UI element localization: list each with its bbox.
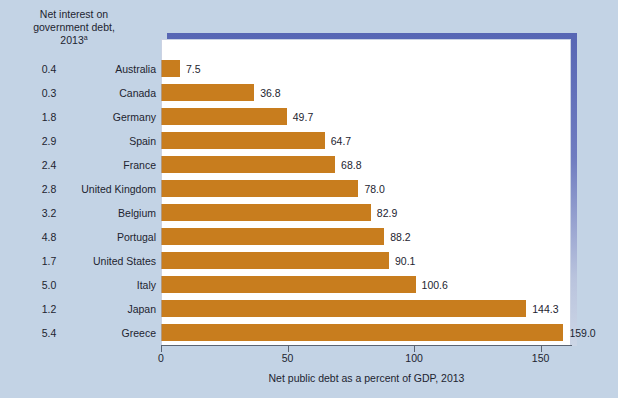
country-label: France: [60, 153, 156, 177]
chart-row: 2.8United Kingdom78.0: [0, 177, 618, 201]
left-column-header-line3: 2013: [60, 34, 83, 46]
x-axis-title: Net public debt as a percent of GDP, 201…: [161, 372, 572, 384]
bar-value-label: 64.7: [331, 129, 351, 153]
country-label: United States: [60, 249, 156, 273]
x-axis-tick-label: 100: [389, 352, 439, 364]
chart-row: 4.8Portugal88.2: [0, 225, 618, 249]
bar-value-label: 144.3: [532, 297, 558, 321]
chart-row: 2.9Spain64.7: [0, 129, 618, 153]
bar: [161, 300, 526, 317]
bar: [161, 252, 389, 269]
bar-value-label: 78.0: [364, 177, 384, 201]
chart-row: 1.7United States90.1: [0, 249, 618, 273]
country-label: Australia: [60, 57, 156, 81]
chart-row: 1.8Germany49.7: [0, 105, 618, 129]
bar: [161, 84, 254, 101]
country-label: Spain: [60, 129, 156, 153]
bar-value-label: 68.8: [341, 153, 361, 177]
bar: [161, 60, 180, 77]
bar-value-label: 82.9: [377, 201, 397, 225]
bar-value-label: 36.8: [260, 81, 280, 105]
country-label: Portugal: [60, 225, 156, 249]
left-column-header-line1: Net interest on: [40, 8, 108, 20]
bar-value-label: 90.1: [395, 249, 415, 273]
left-column-header: Net interest on government debt, 2013a: [8, 8, 140, 47]
chart-row: 5.4Greece159.0: [0, 321, 618, 345]
country-label: Germany: [60, 105, 156, 129]
bar: [161, 132, 325, 149]
bar-value-label: 49.7: [293, 105, 313, 129]
chart-row: 5.0Italy100.6: [0, 273, 618, 297]
country-label: Belgium: [60, 201, 156, 225]
x-axis-tick-label: 150: [516, 352, 566, 364]
left-column-header-line2: government debt,: [33, 21, 115, 33]
country-label: Canada: [60, 81, 156, 105]
country-label: Italy: [60, 273, 156, 297]
chart-row: 0.4Australia7.5: [0, 57, 618, 81]
bar: [161, 180, 358, 197]
bar-value-label: 159.0: [569, 321, 595, 345]
bar: [161, 324, 563, 341]
bar-value-label: 7.5: [186, 57, 201, 81]
bar: [161, 228, 384, 245]
x-axis-tick-label: 50: [263, 352, 313, 364]
left-column-header-footnote: a: [84, 34, 88, 41]
bar: [161, 156, 335, 173]
bar: [161, 108, 287, 125]
bar: [161, 276, 416, 293]
chart-row: 3.2Belgium82.9: [0, 201, 618, 225]
country-label: Japan: [60, 297, 156, 321]
x-axis-tick-label: 0: [136, 352, 186, 364]
chart-row: 1.2Japan144.3: [0, 297, 618, 321]
x-axis-line: [161, 345, 572, 346]
bar: [161, 204, 371, 221]
chart-rows: 0.4Australia7.50.3Canada36.81.8Germany49…: [0, 57, 618, 345]
country-label: Greece: [60, 321, 156, 345]
bar-value-label: 100.6: [422, 273, 448, 297]
chart-figure: Net interest on government debt, 2013a 0…: [0, 0, 618, 398]
bar-value-label: 88.2: [390, 225, 410, 249]
chart-row: 0.3Canada36.8: [0, 81, 618, 105]
country-label: United Kingdom: [60, 177, 156, 201]
chart-row: 2.4France68.8: [0, 153, 618, 177]
